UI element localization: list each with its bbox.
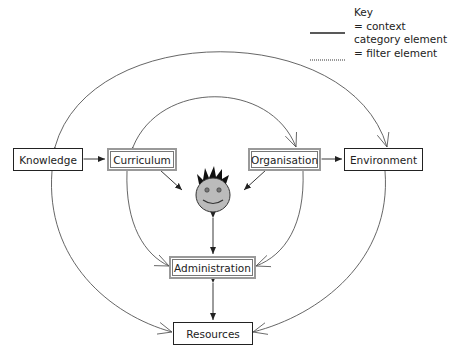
node-administration: Administration [169,256,256,279]
node-label: Curriculum [113,154,171,166]
node-label: Resources [186,328,240,340]
key-title: Key [354,6,447,20]
node-curriculum: Curriculum [107,148,177,171]
node-knowledge: Knowledge [13,148,83,171]
node-environment: Environment [344,148,423,171]
node-label: Knowledge [19,154,77,166]
key-filter-label: = filter element [354,47,447,61]
key-legend: Key = context category element = filter … [354,6,447,60]
key-context-label: = context [354,20,447,34]
key-category-label: category element [354,33,447,47]
node-organisation: Organisation [248,148,321,171]
node-resources: Resources [173,322,253,345]
smiley-face-icon [196,166,230,212]
node-label: Environment [350,154,417,166]
node-label: Administration [174,262,251,274]
node-label: Organisation [251,154,318,166]
